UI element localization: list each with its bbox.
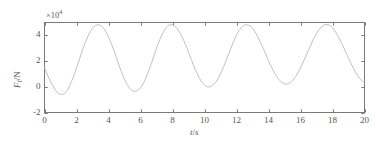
x-tick-label: 0: [33, 115, 57, 125]
y-tick-label: 4: [19, 29, 41, 39]
x-tick-label: 2: [65, 115, 89, 125]
x-tick-label: 16: [289, 115, 313, 125]
exponent-mantissa: ×10: [46, 10, 59, 20]
x-tick-label: 10: [193, 115, 217, 125]
x-tick-label: 18: [321, 115, 345, 125]
x-tick-label: 8: [161, 115, 185, 125]
axes-box: [45, 23, 365, 113]
x-tick-label: 12: [225, 115, 249, 125]
y-tick-label: 2: [19, 55, 41, 65]
axis-exponent-label: ×104: [46, 9, 62, 20]
y-axis-title-variable: F: [12, 83, 22, 89]
x-tick-label: 20: [353, 115, 376, 125]
data-series-line: [45, 24, 365, 94]
y-axis-title: Ff/N: [12, 71, 22, 88]
x-axis-title-unit: s: [195, 127, 199, 137]
x-tick-label: 14: [257, 115, 281, 125]
exponent-power: 4: [59, 9, 62, 15]
y-axis-title-unit: N: [12, 71, 22, 78]
x-axis-title: t/s: [190, 127, 199, 137]
x-tick-label: 4: [97, 115, 121, 125]
x-tick-label: 6: [129, 115, 153, 125]
figure-panel: ×104 -2024 02468101214161820 Ff/N t/s: [0, 0, 376, 144]
